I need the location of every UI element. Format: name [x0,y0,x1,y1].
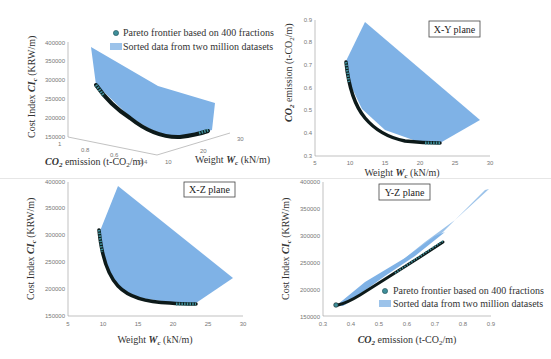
y-tick-labels: 400000 350000 300000 250000 200000 15000… [45,180,66,319]
plane-label: X-Z plane [189,184,230,195]
svg-text:15: 15 [382,160,389,166]
svg-text:200000: 200000 [45,286,66,292]
x-axis-label: CO2 emission (t-CO2/m) [358,334,457,347]
svg-text:0.6: 0.6 [403,321,412,327]
svg-text:200000: 200000 [300,287,321,293]
svg-text:400000: 400000 [45,40,66,46]
svg-text:300000: 300000 [45,232,66,238]
svg-text:150000: 150000 [300,314,321,320]
svg-text:5: 5 [313,160,317,166]
svg-text:0.8: 0.8 [81,147,90,153]
svg-text:150000: 150000 [45,134,66,140]
pareto-legend-marker [382,288,387,293]
sorted-data-area [91,47,215,138]
chart-x-z-plane: 400000 350000 300000 250000 200000 15000… [0,180,275,359]
svg-text:10: 10 [347,160,354,166]
svg-text:0.5: 0.5 [375,321,384,327]
svg-text:30: 30 [237,136,244,142]
legend-pareto-label: Pareto frontier based on 400 fractions [123,27,274,38]
svg-text:0.6: 0.6 [304,85,313,91]
svg-text:250000: 250000 [45,259,66,265]
x-tick-labels: 5 10 15 20 25 30 [66,321,247,327]
svg-text:20: 20 [417,160,424,166]
sorted-legend-marker [110,43,122,50]
svg-text:10: 10 [165,159,172,165]
y-axis-label: CO2 emission (t-CO2/m) [45,156,144,169]
svg-text:20: 20 [170,321,177,327]
svg-text:400000: 400000 [45,180,66,185]
y-axis-label: Cost Index CIc (KRW/m) [25,198,38,300]
x-axis-label: Weight Wc (kN/m) [195,154,270,167]
legend-sorted-label: Sorted data from two million datasets [393,298,543,309]
legend-sorted-label: Sorted data from two million datasets [123,41,273,52]
sorted-data-area [100,186,233,303]
x-tick-labels: 0.3 0.4 0.5 0.6 0.7 0.8 0.9 [319,321,496,327]
svg-text:350000: 350000 [45,205,66,211]
svg-text:0.7: 0.7 [431,321,440,327]
svg-text:350000: 350000 [300,206,321,212]
svg-text:400000: 400000 [300,180,321,185]
y-axis-label: CO2 emission (t-CO2/m) [283,23,296,122]
z-tick-labels: 400000 350000 300000 250000 200000 15000… [45,40,66,140]
svg-text:15: 15 [135,321,142,327]
y-axis-label: Cost Index CIc (KRW/m) [280,198,293,300]
svg-text:0.8: 0.8 [304,39,313,45]
svg-text:5: 5 [66,321,70,327]
svg-text:1: 1 [58,141,62,147]
svg-text:30: 30 [240,321,247,327]
svg-text:150000: 150000 [45,313,66,319]
y-tick-labels: 400000 350000 300000 250000 200000 15000… [300,180,321,320]
svg-text:0.9: 0.9 [487,321,496,327]
sorted-data-area [346,22,480,143]
chart-3d-view: 400000 350000 300000 250000 200000 15000… [0,0,275,180]
legend-pareto-label: Pareto frontier based on 400 fractions [393,285,544,296]
svg-text:0.8: 0.8 [459,321,468,327]
svg-text:10: 10 [100,321,107,327]
chart-y-z-plane: 400000 350000 300000 250000 200000 15000… [275,180,551,359]
z-axis-label: Cost Index CIc (KRW/m) [26,36,39,138]
svg-text:350000: 350000 [45,58,66,64]
svg-text:0.4: 0.4 [347,321,356,327]
plane-label: X-Y plane [434,24,476,35]
legend: Pareto frontier based on 400 fractions S… [379,285,544,309]
svg-text:25: 25 [205,321,212,327]
svg-text:30: 30 [487,160,494,166]
pareto-legend-marker [113,30,118,35]
x-tick-labels: 5 10 15 20 25 30 [313,160,494,166]
svg-text:0.3: 0.3 [319,321,328,327]
svg-text:25: 25 [452,160,459,166]
svg-text:0.4: 0.4 [304,130,313,136]
sorted-legend-marker [379,300,391,307]
svg-text:0.7: 0.7 [304,62,313,68]
plane-label: Y-Z plane [385,187,425,198]
svg-text:300000: 300000 [300,233,321,239]
x-axis-label: Weight Wc (kN/m) [364,167,439,180]
svg-text:200000: 200000 [45,115,66,121]
svg-text:300000: 300000 [45,77,66,83]
chart-x-y-plane: 0.9 0.8 0.7 0.6 0.5 0.4 0.3 5 10 15 20 2… [275,0,551,180]
svg-text:250000: 250000 [300,260,321,266]
svg-text:0.5: 0.5 [304,107,313,113]
svg-text:250000: 250000 [45,96,66,102]
svg-text:0.9: 0.9 [304,17,313,23]
legend: Pareto frontier based on 400 fractions S… [110,27,274,52]
y-tick-labels: 0.9 0.8 0.7 0.6 0.5 0.4 0.3 [304,17,313,159]
x-axis-label: Weight Wc (kN/m) [117,334,192,347]
svg-text:0.3: 0.3 [304,153,313,159]
